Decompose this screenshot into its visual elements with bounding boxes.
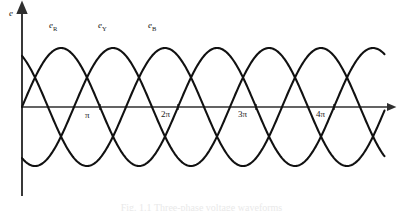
figure-caption: Fig. 1.1 Three-phase voltage waveforms (0, 202, 403, 211)
curve-label-eY-sub: Y (102, 25, 107, 32)
x-tick-label-2pi: 2π (161, 110, 170, 119)
x-tick-label-4pi: 4π (316, 110, 325, 119)
y-axis-label: e (9, 9, 13, 18)
x-tick-label-pi: π (85, 111, 90, 120)
waveform-figure (0, 0, 403, 211)
curve-label-eY: eY (98, 21, 107, 32)
x-tick-label-3pi: 3π (238, 110, 247, 119)
axes (22, 12, 388, 196)
curve-label-eR-sub: R (53, 25, 57, 32)
curve-label-eR: eR (49, 21, 57, 32)
curve-label-eB: eB (148, 21, 156, 32)
curve-label-eB-sub: B (152, 25, 156, 32)
